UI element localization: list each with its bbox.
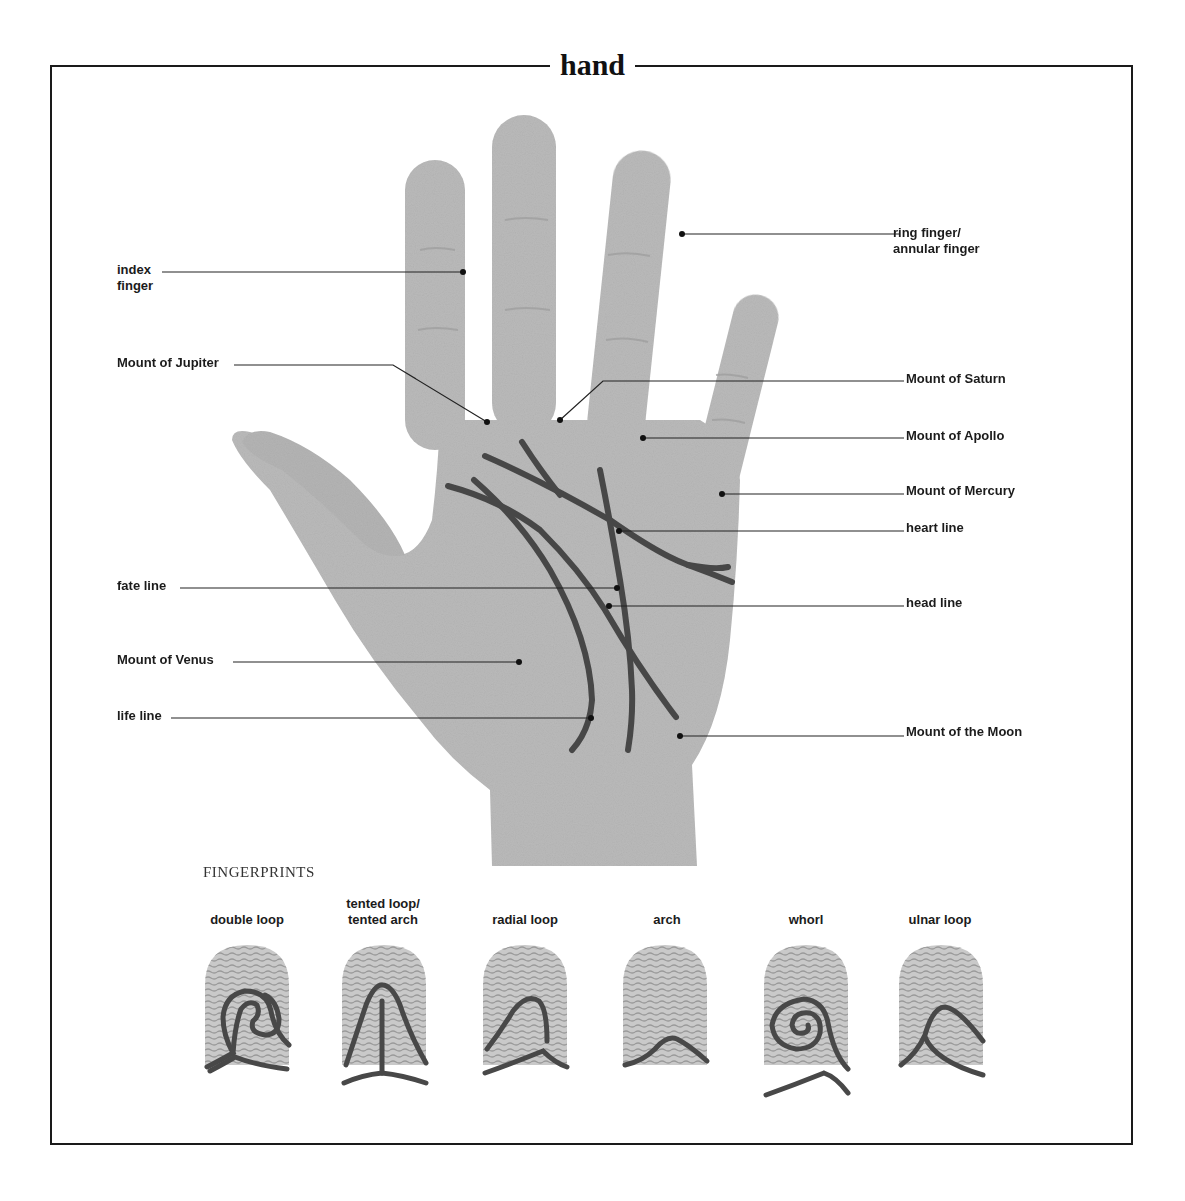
label-mount-saturn: Mount of Saturn [906, 371, 1006, 387]
fingerprint-label-tented-loop: tented loop/ tented arch [313, 896, 453, 928]
label-fate-line: fate line [117, 578, 166, 594]
finger-creases [418, 218, 748, 423]
hand-diagram: hand [0, 0, 1185, 1201]
fingerprint-whorl [764, 945, 848, 1095]
label-mount-moon: Mount of the Moon [906, 724, 1022, 740]
fingerprint-label-arch: arch [597, 896, 737, 928]
label-index-finger: index finger [117, 262, 153, 294]
label-ring-finger: ring finger/ annular finger [893, 225, 980, 257]
fingerprints-heading: FINGERPRINTS [203, 864, 315, 881]
fingerprint-double-loop [205, 945, 289, 1071]
label-heart-line: heart line [906, 520, 964, 536]
fingerprint-radial-loop [483, 945, 567, 1073]
hand-illustration [0, 0, 1185, 1201]
label-mount-apollo: Mount of Apollo [906, 428, 1004, 444]
fingerprint-tented-loop [342, 945, 426, 1083]
fingerprint-label-radial-loop: radial loop [455, 896, 595, 928]
label-mount-mercury: Mount of Mercury [906, 483, 1015, 499]
fingerprint-ulnar-loop [899, 945, 983, 1075]
fingerprint-label-ulnar-loop: ulnar loop [870, 896, 1010, 928]
fingerprint-label-double-loop: double loop [177, 896, 317, 928]
fingerprint-label-whorl: whorl [736, 896, 876, 928]
label-mount-venus: Mount of Venus [117, 652, 214, 668]
hand-silhouette [232, 115, 783, 866]
fingerprint-arch [623, 945, 707, 1065]
label-head-line: head line [906, 595, 962, 611]
label-life-line: life line [117, 708, 162, 724]
label-mount-jupiter: Mount of Jupiter [117, 355, 219, 371]
